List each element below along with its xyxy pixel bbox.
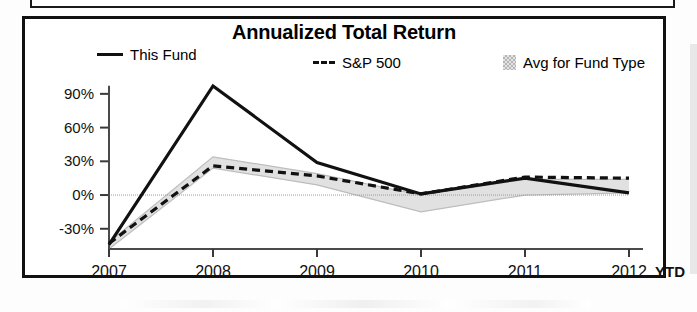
chart-plot-area: 90%60%30%0%-30% 200720082009201020112012… xyxy=(25,19,669,281)
y-tick-label: 30% xyxy=(64,152,94,169)
screenshot-root: Annualized Total Return This Fund S&P 50… xyxy=(0,0,697,312)
x-tick-label: 2009 xyxy=(299,263,335,280)
x-tick-label: 2010 xyxy=(403,263,439,280)
scan-artifact-right-edge xyxy=(690,44,697,274)
y-tick-label: 0% xyxy=(72,186,94,203)
x-tick-label: 2012 xyxy=(611,263,647,280)
x-axis-ticks: 200720082009201020112012 xyxy=(91,249,647,280)
y-tick-label: -30% xyxy=(59,220,94,237)
scan-artifact-top-box xyxy=(30,0,675,8)
x-axis-ytd-label: YTD xyxy=(655,263,685,280)
chart-panel: Annualized Total Return This Fund S&P 50… xyxy=(22,16,666,278)
y-tick-label: 90% xyxy=(64,85,94,102)
avg-fund-type-band xyxy=(109,157,629,249)
y-axis-ticks: 90%60%30%0%-30% xyxy=(59,85,108,237)
x-tick-label: 2007 xyxy=(91,263,127,280)
series-line-this-fund xyxy=(109,86,629,245)
x-tick-label: 2008 xyxy=(195,263,231,280)
y-tick-label: 60% xyxy=(64,119,94,136)
x-tick-label: 2011 xyxy=(508,263,543,280)
scan-artifact-bottom-smudge xyxy=(120,300,590,308)
